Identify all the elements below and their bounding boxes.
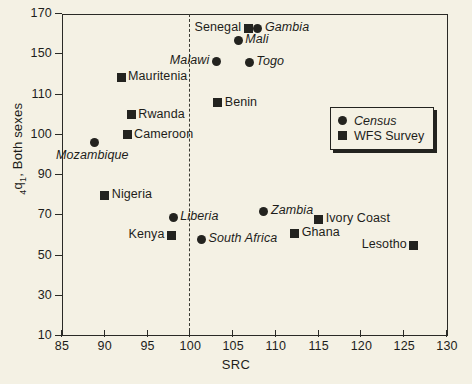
data-point-liberia: [169, 213, 178, 222]
point-label-malawi: Malawi: [170, 53, 210, 67]
data-point-togo: [245, 58, 254, 67]
point-label-senegal: Senegal: [195, 20, 242, 34]
x-tick-label-120: 120: [341, 339, 381, 353]
circle-marker-icon: [338, 116, 347, 125]
x-tick-label-95: 95: [128, 339, 168, 353]
x-tick-label-90: 90: [85, 339, 125, 353]
point-label-zambia: Zambia: [271, 203, 313, 217]
data-point-nigeria: [100, 191, 109, 200]
x-axis-title: SRC: [0, 357, 472, 372]
chart-page: 1701501101009070503010 85909510010511011…: [0, 0, 472, 384]
point-label-south-africa: South Africa: [208, 231, 277, 245]
point-label-rwanda: Rwanda: [138, 107, 184, 121]
data-point-mali: [234, 36, 243, 45]
point-label-lesotho: Lesotho: [362, 237, 407, 251]
y-axis-title: 4q1, Both sexes: [10, 84, 28, 214]
data-point-benin: [213, 98, 222, 107]
point-label-ghana: Ghana: [302, 225, 340, 239]
legend-label: Census: [354, 114, 396, 128]
y-tick-150: [55, 53, 62, 54]
x-tick-85: [61, 330, 62, 337]
point-label-benin: Benin: [225, 95, 257, 109]
legend-label: WFS Survey: [354, 129, 424, 143]
square-marker-icon: [338, 131, 347, 140]
x-tick-label-100: 100: [170, 339, 210, 353]
x-tick-label-105: 105: [213, 339, 253, 353]
data-point-rwanda: [127, 110, 136, 119]
y-tick-30: [55, 295, 62, 296]
data-point-ivory-coast: [314, 215, 323, 224]
x-tick-120: [360, 330, 361, 337]
y-tick-label-170: 170: [8, 6, 52, 20]
x-tick-105: [232, 330, 233, 337]
x-tick-label-110: 110: [256, 339, 296, 353]
point-label-ivory-coast: Ivory Coast: [326, 211, 390, 225]
y-tick-label-150: 150: [8, 46, 52, 60]
x-tick-label-130: 130: [427, 339, 467, 353]
x-tick-115: [318, 330, 319, 337]
x-tick-label-125: 125: [384, 339, 424, 353]
x-tick-110: [275, 330, 276, 337]
x-tick-90: [104, 330, 105, 337]
x-tick-label-115: 115: [299, 339, 339, 353]
point-label-mauritenia: Mauritenia: [128, 69, 187, 83]
legend-item-wfs-survey: WFS Survey: [338, 128, 424, 143]
point-label-cameroon: Cameroon: [134, 127, 193, 141]
point-label-mali: Mali: [245, 32, 268, 46]
y-tick-100: [55, 134, 62, 135]
x-tick-95: [147, 330, 148, 337]
plot-frame-right: [447, 14, 448, 336]
x-tick-125: [403, 330, 404, 337]
legend-item-census: Census: [338, 113, 424, 128]
point-label-togo: Togo: [256, 54, 284, 68]
y-tick-50: [55, 255, 62, 256]
data-point-mauritenia: [117, 73, 126, 82]
y-tick-110: [55, 94, 62, 95]
y-tick-170: [55, 13, 62, 14]
data-point-cameroon: [123, 130, 132, 139]
data-point-lesotho: [409, 241, 418, 250]
data-point-senegal: [244, 24, 253, 33]
point-label-kenya: Kenya: [129, 227, 165, 241]
plot-area: [62, 14, 448, 336]
y-tick-label-50: 50: [8, 248, 52, 262]
point-label-gambia: Gambia: [265, 20, 309, 34]
x-tick-130: [446, 330, 447, 337]
point-label-mozambique: Mozambique: [56, 148, 129, 162]
x-tick-100: [189, 330, 190, 337]
data-point-south-africa: [197, 235, 206, 244]
y-tick-90: [55, 174, 62, 175]
data-point-ghana: [290, 229, 299, 238]
y-tick-70: [55, 214, 62, 215]
y-tick-label-30: 30: [8, 288, 52, 302]
point-label-nigeria: Nigeria: [112, 187, 152, 201]
plot-frame-top: [62, 14, 448, 15]
x-tick-label-85: 85: [42, 339, 82, 353]
point-label-liberia: Liberia: [180, 209, 218, 223]
data-point-kenya: [167, 231, 176, 240]
legend: CensusWFS Survey: [330, 107, 434, 150]
